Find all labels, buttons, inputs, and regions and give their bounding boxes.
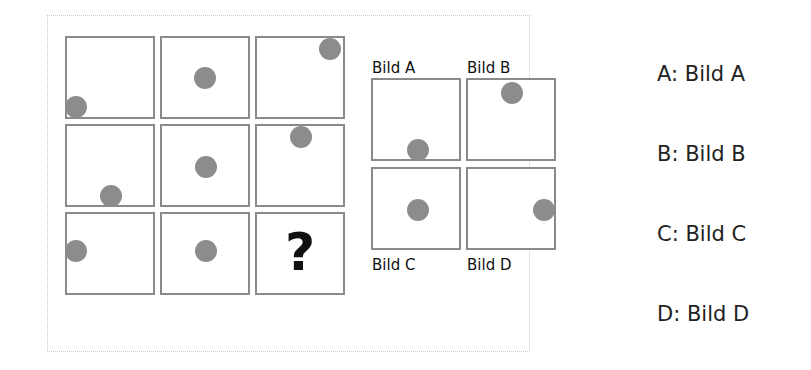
matrix-cell-r3c2 bbox=[160, 212, 250, 295]
matrix-cell-r3c1 bbox=[65, 212, 155, 295]
answer-d[interactable]: D: Bild D bbox=[657, 302, 749, 326]
matrix-cell-r1c2 bbox=[160, 36, 250, 119]
option-b-picture[interactable] bbox=[466, 78, 556, 161]
question-mark-icon: ? bbox=[257, 222, 343, 282]
option-b-label: Bild B bbox=[467, 59, 510, 77]
option-a-label: Bild A bbox=[372, 59, 415, 77]
option-d-picture[interactable] bbox=[466, 167, 556, 250]
dot-icon bbox=[407, 199, 429, 221]
option-a-picture[interactable] bbox=[371, 78, 461, 161]
matrix-cell-r2c2 bbox=[160, 124, 250, 207]
answer-a[interactable]: A: Bild A bbox=[657, 62, 745, 86]
dot-icon bbox=[65, 96, 87, 118]
dot-icon bbox=[290, 126, 312, 148]
dot-icon bbox=[533, 199, 555, 221]
dot-icon bbox=[195, 156, 217, 178]
dot-icon bbox=[100, 185, 122, 207]
dot-icon bbox=[65, 240, 87, 262]
answer-b[interactable]: B: Bild B bbox=[657, 142, 746, 166]
matrix-cell-r2c1 bbox=[65, 124, 155, 207]
dot-icon bbox=[319, 38, 341, 60]
answer-c[interactable]: C: Bild C bbox=[657, 222, 746, 246]
dot-icon bbox=[194, 67, 216, 89]
matrix-cell-r1c1 bbox=[65, 36, 155, 119]
matrix-cell-missing: ? bbox=[255, 212, 345, 295]
dot-icon bbox=[501, 82, 523, 104]
option-d-label: Bild D bbox=[467, 256, 511, 274]
option-c-label: Bild C bbox=[372, 256, 415, 274]
matrix-cell-r1c3 bbox=[255, 36, 345, 119]
option-c-picture[interactable] bbox=[371, 167, 461, 250]
dot-icon bbox=[407, 139, 429, 161]
matrix-cell-r2c3 bbox=[255, 124, 345, 207]
dot-icon bbox=[195, 240, 217, 262]
